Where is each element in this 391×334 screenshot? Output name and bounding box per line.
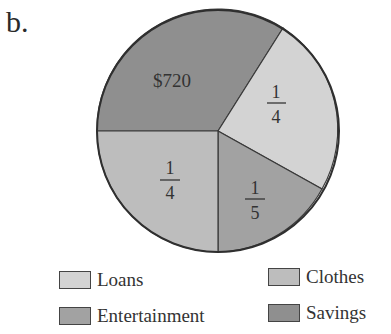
clothes-fraction-numerator: 1 bbox=[166, 158, 175, 178]
legend-label-loans: Loans bbox=[97, 269, 143, 291]
legend-item-clothes: Clothes bbox=[268, 266, 364, 288]
savings-value-label: $720 bbox=[153, 70, 191, 91]
legend-item-loans: Loans bbox=[59, 269, 143, 291]
clothes-fraction-denominator: 4 bbox=[166, 183, 175, 203]
legend-label-entertainment: Entertainment bbox=[97, 305, 205, 327]
legend-swatch-clothes bbox=[268, 268, 300, 286]
loans-fraction-numerator: 1 bbox=[272, 82, 281, 102]
legend-item-savings: Savings bbox=[268, 302, 366, 324]
legend-swatch-entertainment bbox=[59, 307, 91, 325]
entertainment-fraction-numerator: 1 bbox=[251, 178, 260, 198]
legend-item-entertainment: Entertainment bbox=[59, 305, 205, 327]
loans-fraction-denominator: 4 bbox=[272, 107, 281, 127]
slice-clothes bbox=[97, 131, 218, 252]
legend-label-clothes: Clothes bbox=[306, 266, 364, 288]
legend-swatch-savings bbox=[268, 304, 300, 322]
legend-swatch-loans bbox=[59, 271, 91, 289]
entertainment-fraction-denominator: 5 bbox=[251, 203, 260, 223]
legend-label-savings: Savings bbox=[306, 302, 366, 324]
